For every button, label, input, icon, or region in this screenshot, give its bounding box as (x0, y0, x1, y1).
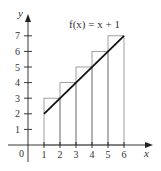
origin-label: 0 (19, 148, 24, 159)
x-tick-label: 5 (106, 149, 111, 160)
x-tick-label: 2 (58, 149, 63, 160)
function-line (44, 36, 124, 114)
y-tick-label: 5 (15, 62, 20, 73)
function-label: f(x) = x + 1 (69, 18, 120, 31)
y-tick-label: 3 (15, 93, 20, 104)
rectangle-2 (60, 83, 76, 145)
y-axis-label: y (17, 7, 23, 19)
x-tick-label: 4 (90, 149, 95, 160)
rectangle-3 (76, 67, 92, 145)
y-tick-label: 1 (15, 124, 20, 135)
x-tick-label: 1 (42, 149, 47, 160)
y-tick-label: 6 (15, 46, 20, 57)
y-axis-arrow-icon (25, 14, 31, 22)
y-tick-label: 7 (15, 30, 20, 41)
right-endpoint-rectangles (44, 36, 124, 145)
y-ticks: 1234567 (15, 30, 32, 135)
x-tick-label: 3 (74, 149, 79, 160)
riemann-sum-chart: 123456 1234567 x y 0 f(x) = x + 1 (0, 0, 161, 171)
x-tick-label: 6 (122, 149, 127, 160)
y-tick-label: 2 (15, 108, 20, 119)
y-tick-label: 4 (15, 77, 20, 88)
rectangle-5 (108, 36, 124, 145)
x-axis-label: x (143, 147, 149, 159)
